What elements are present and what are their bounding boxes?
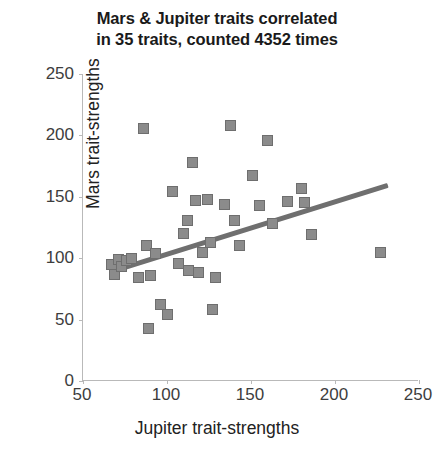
data-point-marker [247,170,258,181]
data-point-marker [178,228,189,239]
data-point-marker [210,272,221,283]
data-point-marker [262,135,273,146]
data-point-marker [234,240,245,251]
x-tick-mark [83,380,84,384]
data-point-marker [138,123,149,134]
data-point-marker [219,199,230,210]
x-tick-label: 250 [404,385,432,405]
data-point-marker [267,218,278,229]
y-tick-label: 200 [46,125,74,145]
data-point-marker [182,215,193,226]
x-tick-mark [419,380,420,384]
data-point-marker [205,237,216,248]
data-point-marker [299,197,310,208]
data-point-marker [296,183,307,194]
data-point-marker [229,215,240,226]
plot-canvas [83,74,419,381]
y-tick-label: 150 [46,187,74,207]
data-point-marker [282,196,293,207]
data-point-marker [197,247,208,258]
y-tick-mark [79,135,83,136]
data-point-marker [306,229,317,240]
data-point-marker [193,267,204,278]
data-point-marker [126,253,137,264]
data-point-marker [254,200,265,211]
data-point-marker [207,304,218,315]
data-point-marker [133,272,144,283]
data-point-marker [187,157,198,168]
trend-line [111,183,388,274]
y-tick-label: 100 [46,248,74,268]
y-axis-tick-labels: 050100150200250 [24,74,74,381]
y-tick-label: 250 [46,64,74,84]
y-tick-label: 50 [55,310,74,330]
x-tick-label: 100 [152,385,180,405]
x-tick-label: 50 [73,385,92,405]
x-tick-mark [167,380,168,384]
x-tick-label: 150 [236,385,264,405]
chart-title: Mars & Jupiter traits correlated in 35 t… [0,8,434,50]
plot-area [82,74,418,381]
y-tick-mark [79,74,83,75]
x-axis-tick-labels: 50100150200250 [82,385,418,409]
data-point-marker [150,248,161,259]
y-tick-mark [79,197,83,198]
x-tick-mark [251,380,252,384]
data-point-marker [167,186,178,197]
data-point-marker [202,194,213,205]
y-tick-mark [79,258,83,259]
data-point-marker [145,270,156,281]
y-tick-mark [79,320,83,321]
data-point-marker [375,247,386,258]
x-axis-title: Jupiter trait-strengths [0,418,434,439]
x-tick-mark [335,380,336,384]
chart-title-line-2: in 35 traits, counted 4352 times [0,29,434,50]
data-point-marker [162,309,173,320]
chart-title-line-1: Mars & Jupiter traits correlated [0,8,434,29]
x-tick-label: 200 [320,385,348,405]
data-point-marker [143,323,154,334]
data-point-marker [190,195,201,206]
scatter-chart-figure: Mars & Jupiter traits correlated in 35 t… [0,0,434,453]
data-point-marker [225,120,236,131]
